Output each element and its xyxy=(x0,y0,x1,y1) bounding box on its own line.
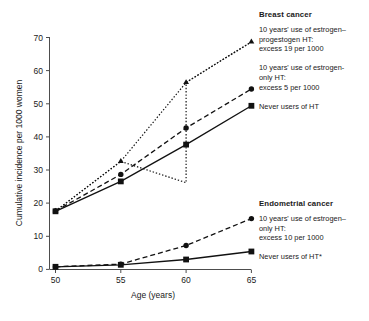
y-tick-label-50: 50 xyxy=(34,99,44,109)
x-tick-marks xyxy=(56,270,252,274)
y-tick-label-60: 60 xyxy=(34,66,44,76)
x-tick-label-65: 65 xyxy=(247,275,257,285)
legend-entry-breast-estrogen-progestogen: 10 years' use of estrogen– progestogen H… xyxy=(259,25,367,55)
y-tick-label-0: 0 xyxy=(38,264,43,274)
legend-entry-endometrial-never-users: Never users of HT* xyxy=(259,252,367,262)
series-line-breast-estrogen-progestogen xyxy=(56,42,252,211)
x-tick-label-60: 60 xyxy=(181,275,191,285)
series-line-breast-estrogen-progestogen-seg xyxy=(56,42,252,211)
legend-breast-cancer: Breast cancer 10 years' use of estrogen–… xyxy=(259,10,367,112)
series-line-breast-never-users xyxy=(56,106,252,212)
legend-heading-breast: Breast cancer xyxy=(259,10,367,21)
legend-heading-endometrial: Endometrial cancer xyxy=(259,199,367,210)
x-tick-label-50: 50 xyxy=(51,275,61,285)
y-axis-title: Cumulative incidence per 1000 women xyxy=(14,79,24,226)
y-tick-label-20: 20 xyxy=(34,198,44,208)
series-markers-breast-never-users xyxy=(53,103,255,214)
figure-container: 70 60 50 40 30 20 10 0 50 55 60 65 Age (… xyxy=(0,0,369,321)
legend-entry-breast-never-users: Never users of HT xyxy=(259,102,367,112)
y-tick-label-30: 30 xyxy=(34,165,44,175)
y-tick-label-10: 10 xyxy=(34,231,44,241)
series-markers-breast-estrogen-only xyxy=(53,86,254,213)
legend-entry-breast-estrogen-only: 10 years' use of estrogen- only HT: exce… xyxy=(259,63,367,93)
series-line-breast-estrogen-only xyxy=(56,89,252,211)
x-axis-title: Age (years) xyxy=(131,290,175,300)
y-tick-label-40: 40 xyxy=(34,132,44,142)
y-tick-label-70: 70 xyxy=(34,33,44,43)
legend-entry-endometrial-estrogen-only: 10 years' use of estrogen– only HT: exce… xyxy=(259,214,367,244)
legend-endometrial-cancer: Endometrial cancer 10 years' use of estr… xyxy=(259,199,367,262)
series-line-endometrial-estrogen-only xyxy=(56,219,252,267)
series-line-endometrial-never-users xyxy=(56,252,252,267)
x-tick-label-55: 55 xyxy=(116,275,126,285)
y-tick-marks xyxy=(46,38,50,270)
series-markers-breast-estrogen-progestogen xyxy=(53,39,255,213)
series-markers-endometrial-estrogen-only xyxy=(53,216,254,270)
